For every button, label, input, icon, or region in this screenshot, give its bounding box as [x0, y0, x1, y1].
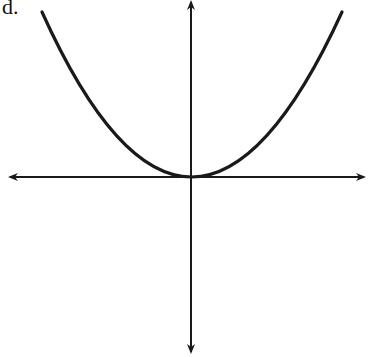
graph	[0, 0, 374, 357]
